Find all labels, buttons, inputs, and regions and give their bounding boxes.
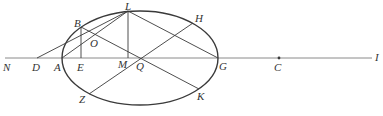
label-B: B	[74, 17, 81, 29]
ellipse-geometry-diagram: NDAEMQGCIBOLHZK	[0, 0, 383, 116]
label-D: D	[31, 61, 40, 73]
segment-LG	[128, 11, 218, 58]
label-O: O	[90, 37, 98, 49]
label-I: I	[374, 51, 380, 63]
label-N: N	[2, 61, 11, 73]
label-Q: Q	[136, 60, 144, 72]
point-C-dot	[278, 57, 281, 60]
segment-DL	[37, 11, 128, 58]
label-E: E	[76, 61, 84, 73]
label-Z: Z	[79, 93, 86, 105]
label-L: L	[124, 0, 131, 12]
label-G: G	[219, 60, 227, 72]
label-H: H	[194, 12, 204, 24]
label-K: K	[196, 90, 205, 102]
label-M: M	[117, 58, 128, 70]
construction-lines	[37, 11, 218, 94]
label-A: A	[53, 61, 61, 73]
point-labels: NDAEMQGCIBOLHZK	[2, 0, 380, 105]
label-C: C	[274, 61, 282, 73]
